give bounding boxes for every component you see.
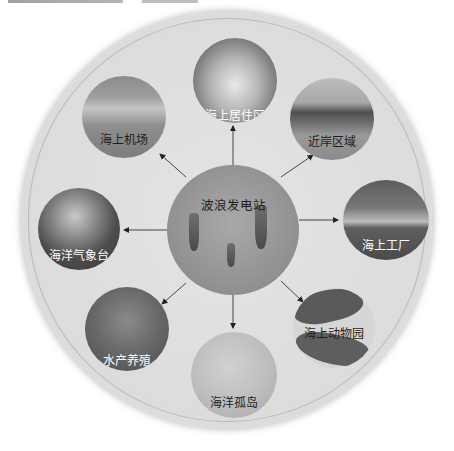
node-nearshore-area: 近岸区域 <box>290 78 374 160</box>
node-ocean-weather-station: 海洋气象台 <box>38 188 120 270</box>
node-label: 海上居住区 <box>193 106 277 123</box>
node-ocean-island: 海洋孤岛 <box>191 332 277 418</box>
node-label: 水产养殖 <box>85 351 169 368</box>
node-label: 海洋气象台 <box>38 246 120 263</box>
node-sea-airport: 海上机场 <box>82 76 166 158</box>
node-label: 海上工厂 <box>343 236 429 253</box>
buoy-image <box>189 213 199 251</box>
node-aquaculture: 水产养殖 <box>85 287 169 371</box>
node-label: 海洋孤岛 <box>191 393 277 410</box>
node-label: 海上动物园 <box>293 324 375 341</box>
node-sea-factory: 海上工厂 <box>343 180 429 260</box>
center-label: 波浪发电站 <box>167 195 299 214</box>
buoy-image <box>227 243 235 267</box>
center-node-wave-power-station: 波浪发电站 <box>167 165 299 295</box>
node-label: 近岸区域 <box>290 132 374 149</box>
node-sea-residential: 海上居住区 <box>193 38 277 123</box>
node-sea-zoo: 海上动物园 <box>293 288 375 368</box>
node-label: 海上机场 <box>82 130 166 147</box>
